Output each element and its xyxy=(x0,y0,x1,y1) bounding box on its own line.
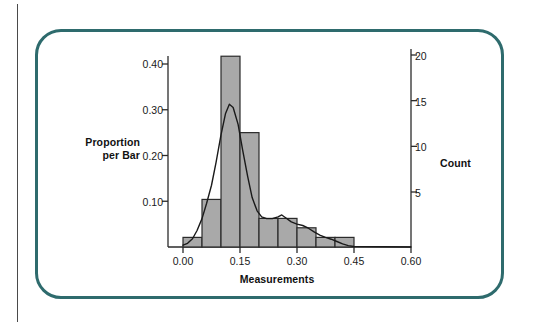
y-axis-title-line2: per Bar xyxy=(103,149,140,161)
y2-tick-label: 10 xyxy=(415,141,439,153)
x-tick-label: 0.30 xyxy=(277,255,317,267)
y-axis-title-line1: Proportion xyxy=(85,136,140,148)
histogram-bar xyxy=(316,237,335,247)
y2-axis-title: Count xyxy=(440,157,471,169)
y-axis-title: Proportionper Bar xyxy=(62,136,140,161)
x-tick-label: 0.45 xyxy=(334,255,374,267)
x-tick-label: 0.60 xyxy=(391,255,431,267)
histogram-bar xyxy=(259,218,278,247)
figure-root: 0.40 0.30 0.20 0.10 20 15 10 5 0.00 0.15… xyxy=(0,0,537,329)
y2-tick-label: 5 xyxy=(415,187,439,199)
y2-tick-label: 20 xyxy=(415,50,439,62)
x-tick-label: 0.15 xyxy=(220,255,260,267)
y-tick-label: 0.10 xyxy=(133,196,163,208)
y2-tick-label: 15 xyxy=(415,96,439,108)
histogram-bar xyxy=(202,199,221,247)
y-tick-label: 0.40 xyxy=(133,58,163,70)
x-tick-label: 0.00 xyxy=(163,255,203,267)
y-tick-label: 0.30 xyxy=(133,104,163,116)
histogram-bar xyxy=(221,56,240,247)
x-axis-title: Measurements xyxy=(222,273,332,285)
